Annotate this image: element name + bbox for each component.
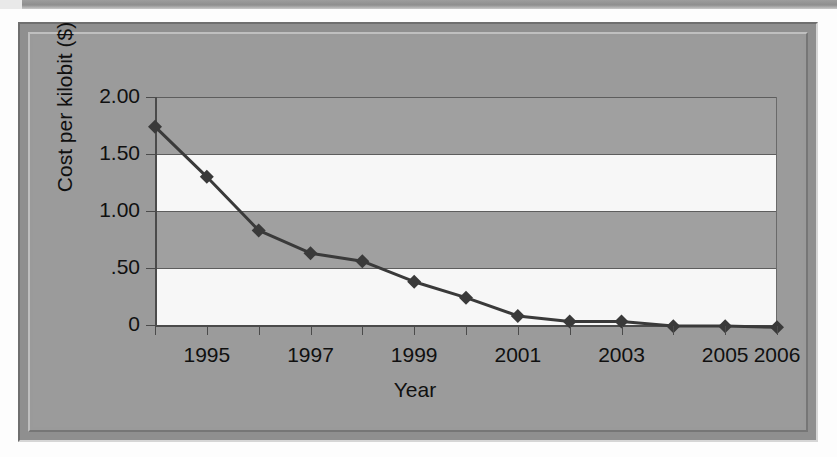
data-point-marker — [304, 246, 318, 260]
x-axis-tick-mark — [311, 326, 312, 335]
plot-area — [155, 97, 777, 325]
x-axis-tick-label: 2003 — [587, 343, 657, 367]
data-point-marker — [355, 254, 369, 268]
data-point-marker — [407, 275, 421, 289]
y-axis-tick-mark — [146, 268, 155, 269]
x-axis-tick-mark — [622, 326, 623, 335]
data-series-line — [155, 97, 777, 337]
y-axis-tick-label: 1.00 — [52, 198, 140, 222]
page-top-highlight — [0, 0, 22, 9]
y-axis-tick-label: 2.00 — [52, 84, 140, 108]
y-axis-tick-mark — [146, 211, 155, 212]
data-point-marker — [459, 291, 473, 305]
y-axis-tick-label: 1.50 — [52, 141, 140, 165]
x-axis-tick-mark — [414, 326, 415, 335]
x-axis-tick-mark — [777, 326, 778, 335]
x-axis-tick-mark — [673, 326, 674, 335]
y-axis-title: Cost per kilobit ($) — [53, 0, 77, 230]
chart-figure: Cost per kilobit ($) 2.001.501.00.500 19… — [0, 0, 837, 457]
y-axis-tick-mark — [146, 325, 155, 326]
x-axis-tick-mark — [518, 326, 519, 335]
y-axis-tick-label: 0 — [52, 312, 140, 336]
x-axis-tick-label: 1999 — [379, 343, 449, 367]
x-axis-tick-label: 1997 — [276, 343, 346, 367]
y-axis-tick-mark — [146, 97, 155, 98]
x-axis-tick-label: 2001 — [483, 343, 553, 367]
x-axis-tick-mark — [570, 326, 571, 335]
x-axis-title: Year — [345, 378, 485, 402]
x-axis-tick-mark — [259, 326, 260, 335]
x-axis-tick-mark — [466, 326, 467, 335]
y-axis-tick-mark — [146, 154, 155, 155]
page-top-shadow — [0, 0, 837, 9]
x-axis-tick-mark — [207, 326, 208, 335]
x-axis-tick-mark — [362, 326, 363, 335]
data-point-marker — [511, 309, 525, 323]
y-axis-tick-label: .50 — [52, 255, 140, 279]
x-axis-tick-mark — [155, 326, 156, 335]
x-axis-tick-mark — [725, 326, 726, 335]
x-axis-tick-label: 1995 — [172, 343, 242, 367]
x-axis-tick-label: 2006 — [742, 343, 812, 367]
